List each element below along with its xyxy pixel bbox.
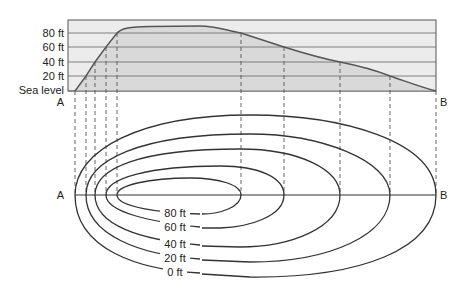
contour-map (75, 115, 436, 277)
contour-0ft (75, 115, 436, 277)
map-label-a: A (57, 189, 65, 201)
elevation-label-sea-level: Sea level (19, 84, 64, 96)
topographic-profile-diagram: 80 ft 60 ft 40 ft 20 ft Sea level A B (0, 0, 462, 298)
contour-20ft (86, 134, 390, 262)
profile-label-a: A (57, 96, 65, 108)
elevation-label-60: 60 ft (43, 41, 64, 53)
elevation-label-40: 40 ft (43, 56, 64, 68)
elevation-profile: 80 ft 60 ft 40 ft 20 ft Sea level A B (19, 20, 448, 108)
contour-label-20: 20 ft (164, 252, 185, 264)
contour-label-60: 60 ft (164, 221, 185, 233)
contour-label-40: 40 ft (164, 238, 185, 250)
elevation-label-80: 80 ft (43, 27, 64, 39)
contour-60ft (106, 166, 284, 228)
map-label-b: B (440, 189, 447, 201)
contour-40ft (95, 149, 340, 247)
elevation-label-20: 20 ft (43, 70, 64, 82)
contour-label-80: 80 ft (164, 207, 185, 219)
contour-label-0: 0 ft (167, 266, 182, 278)
profile-label-b: B (440, 96, 447, 108)
